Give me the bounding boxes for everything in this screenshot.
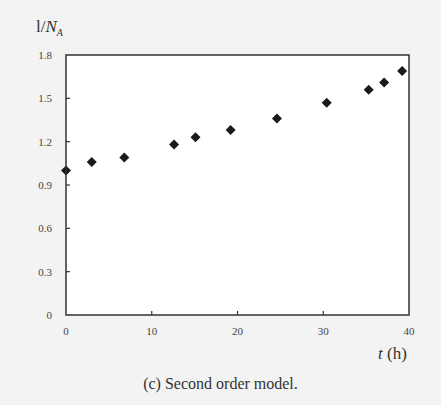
y-tick-label: 1.5	[38, 92, 52, 104]
x-tick-label: 40	[404, 325, 416, 337]
y-tick-label: 1.8	[38, 49, 52, 61]
figure-caption: (c) Second order model.	[0, 375, 441, 393]
chart: 00.30.60.91.21.51.8 010203040 l/NA t (h)	[0, 0, 441, 405]
x-tick-label: 0	[63, 325, 69, 337]
y-tick-label: 0.9	[38, 179, 52, 191]
x-tick-label: 10	[146, 325, 158, 337]
y-tick-label: 0.3	[38, 266, 52, 278]
plot-area	[66, 55, 409, 315]
x-tick-label: 30	[318, 325, 330, 337]
y-tick-label: 1.2	[38, 136, 52, 148]
x-tick-label: 20	[232, 325, 244, 337]
x-axis-title: t (h)	[378, 344, 407, 363]
y-tick-label: 0	[47, 309, 53, 321]
y-tick-label: 0.6	[38, 222, 52, 234]
y-axis-title: l/NA	[36, 17, 64, 38]
